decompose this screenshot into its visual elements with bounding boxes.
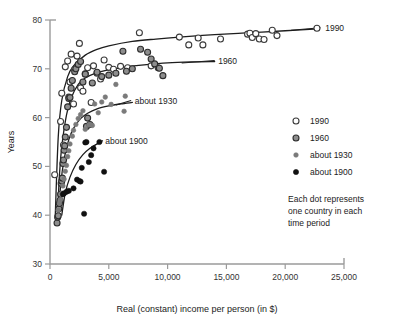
data-point [84, 139, 89, 144]
data-point [62, 143, 68, 149]
legend-marker-about-1930 [294, 153, 299, 158]
data-point [85, 65, 91, 71]
y-tick-label: 70 [33, 64, 43, 74]
curve-labels: 19901960about 1930about 1900 [105, 23, 344, 146]
legend-marker-1990 [293, 118, 299, 124]
data-point [68, 142, 73, 147]
note-line: Each dot represents [288, 194, 364, 204]
data-point [68, 85, 74, 91]
data-point [89, 153, 94, 158]
data-point [71, 186, 76, 191]
legend-marker-1960 [293, 135, 299, 141]
data-point [91, 63, 97, 69]
x-tick-label: 0 [48, 272, 53, 282]
data-point [71, 101, 77, 107]
data-point [176, 34, 182, 40]
legend: 19901960about 1930about 1900 [293, 116, 353, 177]
data-point [81, 108, 86, 113]
data-point [63, 169, 68, 174]
data-point [129, 66, 135, 72]
data-point [86, 159, 91, 164]
data-point [65, 58, 71, 64]
data-point [89, 80, 95, 86]
data-point [55, 213, 61, 219]
data-point [82, 71, 88, 77]
data-point [261, 37, 267, 43]
data-point [54, 220, 60, 226]
data-point [74, 122, 79, 127]
legend-marker-about-1900 [293, 169, 298, 174]
data-point [90, 123, 95, 128]
legend-label-about-1900: about 1900 [310, 167, 353, 177]
data-point [64, 163, 69, 168]
data-point [85, 115, 91, 121]
data-point [114, 82, 119, 87]
curve-label-1960: 1960 [218, 56, 237, 66]
data-point [80, 88, 86, 94]
data-point [97, 139, 102, 144]
data-point [62, 64, 68, 70]
data-point [218, 36, 224, 42]
data-point [58, 197, 63, 202]
scatter-chart: 30405060708005,00010,00015,00020,00025,0… [0, 0, 394, 334]
data-point [200, 42, 206, 48]
note-line: time period [288, 218, 330, 228]
data-point [99, 74, 105, 80]
data-point [58, 119, 64, 125]
data-point [99, 100, 104, 105]
data-point [78, 58, 84, 64]
data-point [120, 48, 126, 54]
y-axis-title: Years [6, 130, 16, 153]
y-tick-label: 30 [33, 259, 43, 269]
data-point [122, 109, 127, 114]
data-point [80, 79, 86, 85]
trend-curves [55, 29, 318, 225]
y-tick-label: 50 [33, 161, 43, 171]
data-point [106, 72, 112, 78]
data-point [82, 211, 87, 216]
data-point [109, 102, 114, 107]
data-point [68, 51, 74, 57]
y-tick-label: 40 [33, 210, 43, 220]
data-point [186, 42, 192, 48]
x-tick-label: 25,000 [331, 272, 357, 282]
data-point [71, 128, 76, 133]
data-point [101, 57, 107, 63]
axis-titles: Real (constant) income per person (in $)… [6, 130, 278, 314]
trend-curve-about-1930 [58, 102, 132, 222]
data-point [138, 46, 144, 52]
data-point [76, 40, 82, 46]
data-point [62, 134, 68, 140]
x-tick-label: 15,000 [213, 272, 239, 282]
x-tick-label: 5,000 [98, 272, 120, 282]
data-point [67, 148, 72, 153]
data-point [91, 146, 96, 151]
data-point [102, 169, 107, 174]
data-point [136, 30, 142, 36]
data-point [52, 172, 58, 178]
data-point [83, 127, 88, 132]
legend-note: Each dot representsone country in eachti… [288, 194, 364, 228]
data-point [123, 94, 128, 99]
legend-label-about-1930: about 1930 [310, 150, 353, 160]
data-point [78, 179, 83, 184]
data-point [62, 177, 67, 182]
data-point [123, 68, 129, 74]
y-tick-label: 80 [33, 15, 43, 25]
data-point [61, 184, 66, 189]
trend-curve-1990 [55, 29, 318, 215]
data-point [195, 35, 201, 41]
data-point [145, 49, 151, 55]
data-point [56, 208, 61, 213]
data-point [103, 95, 108, 100]
legend-label-1960: 1960 [310, 133, 329, 143]
y-tick-label: 60 [33, 113, 43, 123]
x-tick-label: 20,000 [272, 272, 298, 282]
data-point [70, 134, 75, 139]
y-axis-ticks: 304050607080 [33, 15, 50, 269]
x-axis-ticks: 05,00010,00015,00020,00025,000 [48, 264, 358, 282]
data-point [79, 165, 84, 170]
chart-figure: 30405060708005,00010,00015,00020,00025,0… [0, 0, 394, 334]
data-point [118, 63, 124, 69]
data-point [92, 102, 97, 107]
